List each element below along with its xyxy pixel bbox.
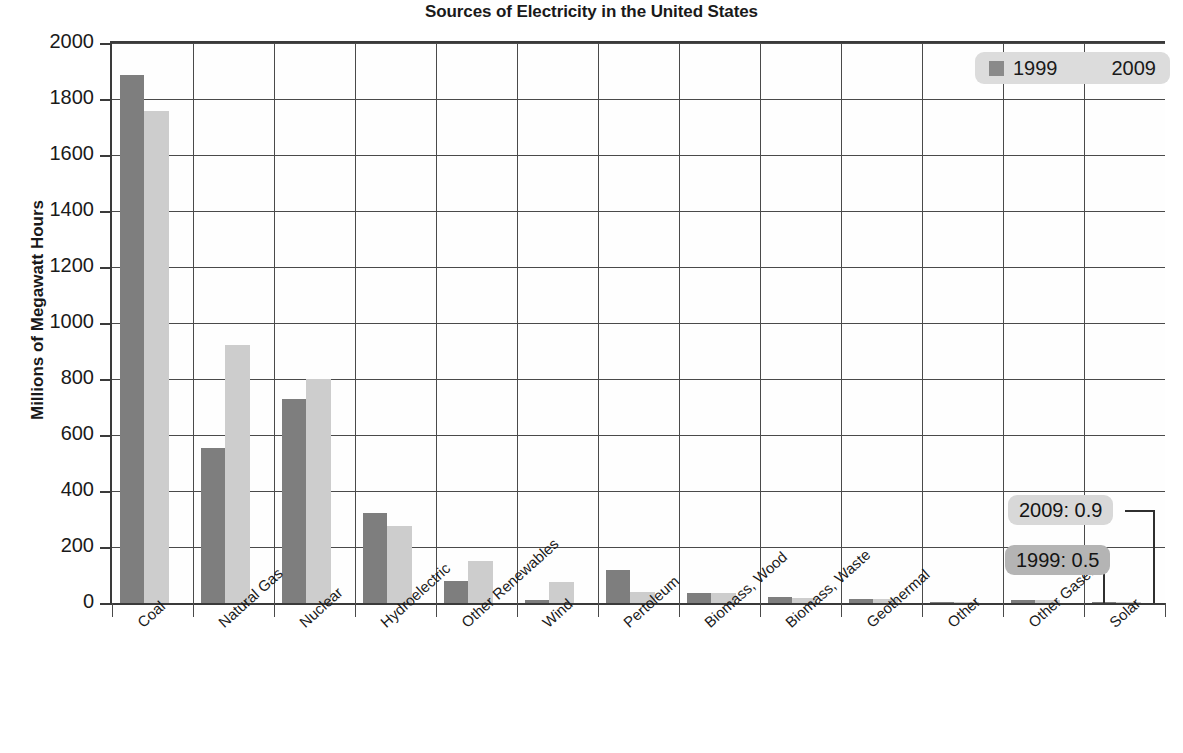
bar-1999-biomass-waste[interactable] bbox=[768, 597, 792, 603]
legend-swatch-icon-2009 bbox=[1088, 61, 1103, 76]
data-callout-1999: 1999: 0.5 bbox=[1005, 545, 1110, 575]
gridline-vertical bbox=[841, 43, 842, 603]
y-axis-tick-mark bbox=[100, 547, 112, 549]
gridline-vertical bbox=[193, 43, 194, 603]
bar-1999-pertoleum[interactable] bbox=[606, 570, 630, 603]
gridline-horizontal bbox=[112, 99, 1165, 100]
y-axis-tick-label: 600 bbox=[24, 422, 94, 445]
gridline-vertical bbox=[922, 43, 923, 603]
x-axis-tick-mark bbox=[1165, 603, 1166, 617]
x-axis-tick-mark bbox=[1003, 603, 1004, 617]
y-axis-tick-mark bbox=[100, 491, 112, 493]
x-axis-tick-mark bbox=[679, 603, 680, 617]
legend-entry-1999[interactable]: 1999 bbox=[989, 57, 1058, 80]
gridline-horizontal bbox=[112, 491, 1165, 492]
gridline-horizontal bbox=[112, 435, 1165, 436]
x-axis-tick-mark bbox=[355, 603, 356, 617]
legend-label-1999: 1999 bbox=[1013, 57, 1058, 80]
y-axis-tick-label: 800 bbox=[24, 366, 94, 389]
x-axis-tick-mark bbox=[922, 603, 923, 617]
gridline-vertical bbox=[679, 43, 680, 603]
gridline-vertical bbox=[355, 43, 356, 603]
x-axis-tick-mark bbox=[760, 603, 761, 617]
x-axis-tick-mark bbox=[274, 603, 275, 617]
y-axis-tick-label: 1600 bbox=[24, 142, 94, 165]
y-axis-tick-label: 0 bbox=[24, 590, 94, 613]
x-axis-tick-labels: CoalNatural GasNuclearHydroelectricOther… bbox=[110, 618, 1163, 748]
bar-1999-wind[interactable] bbox=[525, 600, 549, 603]
x-axis-tick-mark bbox=[598, 603, 599, 617]
bar-1999-natural-gas[interactable] bbox=[201, 448, 225, 603]
x-axis-tick-mark bbox=[436, 603, 437, 617]
bar-2009-natural-gas[interactable] bbox=[225, 345, 249, 603]
gridline-vertical bbox=[598, 43, 599, 603]
callout-leader-line-2009 bbox=[1125, 510, 1155, 603]
y-axis-tick-label: 400 bbox=[24, 478, 94, 501]
y-axis-tick-label: 1200 bbox=[24, 254, 94, 277]
gridline-horizontal bbox=[112, 211, 1165, 212]
y-axis-tick-label: 1000 bbox=[24, 310, 94, 333]
bar-2009-coal[interactable] bbox=[144, 111, 168, 603]
legend-entry-2009[interactable]: 2009 bbox=[1088, 57, 1157, 80]
bar-1999-coal[interactable] bbox=[120, 75, 144, 603]
y-axis-tick-label: 200 bbox=[24, 534, 94, 557]
bar-1999-other-renewables[interactable] bbox=[444, 581, 468, 603]
x-axis-tick-mark bbox=[112, 603, 113, 617]
y-axis-tick-label: 2000 bbox=[24, 30, 94, 53]
chart-page: Sources of Electricity in the United Sta… bbox=[0, 0, 1183, 753]
legend[interactable]: 1999 2009 bbox=[975, 52, 1170, 84]
bar-2009-nuclear[interactable] bbox=[306, 379, 330, 603]
y-axis-tick-label: 1800 bbox=[24, 86, 94, 109]
bar-1999-other-gases[interactable] bbox=[1011, 600, 1035, 603]
gridline-vertical bbox=[1003, 43, 1004, 603]
gridline-vertical bbox=[436, 43, 437, 603]
y-axis-tick-mark bbox=[100, 211, 112, 213]
y-axis-tick-mark bbox=[100, 267, 112, 269]
x-axis-tick-mark bbox=[517, 603, 518, 617]
gridline-horizontal bbox=[112, 155, 1165, 156]
x-axis-tick-mark bbox=[1084, 603, 1085, 617]
gridline-horizontal bbox=[112, 323, 1165, 324]
y-axis-tick-mark bbox=[100, 603, 112, 605]
page-title: Sources of Electricity in the United Sta… bbox=[0, 2, 1183, 22]
bar-1999-geothermal[interactable] bbox=[849, 599, 873, 603]
x-axis-tick-mark bbox=[841, 603, 842, 617]
plot-area bbox=[110, 41, 1165, 605]
bar-1999-biomass-wood[interactable] bbox=[687, 593, 711, 603]
data-callout-2009: 2009: 0.9 bbox=[1008, 495, 1113, 525]
gridline-horizontal bbox=[112, 267, 1165, 268]
y-axis-tick-mark bbox=[100, 43, 112, 45]
y-axis-tick-mark bbox=[100, 99, 112, 101]
x-axis-tick-mark bbox=[193, 603, 194, 617]
gridline-vertical bbox=[274, 43, 275, 603]
gridline-horizontal bbox=[112, 379, 1165, 380]
bar-1999-other[interactable] bbox=[930, 602, 954, 604]
gridline-vertical bbox=[760, 43, 761, 603]
y-axis-tick-mark bbox=[100, 155, 112, 157]
y-axis-tick-label: 1400 bbox=[24, 198, 94, 221]
legend-swatch-icon-1999 bbox=[989, 61, 1004, 76]
y-axis-tick-mark bbox=[100, 435, 112, 437]
y-axis-tick-mark bbox=[100, 379, 112, 381]
y-axis-tick-mark bbox=[100, 323, 112, 325]
bar-1999-nuclear[interactable] bbox=[282, 399, 306, 603]
bar-1999-hydroelectric[interactable] bbox=[363, 513, 387, 603]
legend-label-2009: 2009 bbox=[1112, 57, 1157, 80]
gridline-vertical bbox=[517, 43, 518, 603]
gridline-horizontal bbox=[112, 43, 1165, 44]
